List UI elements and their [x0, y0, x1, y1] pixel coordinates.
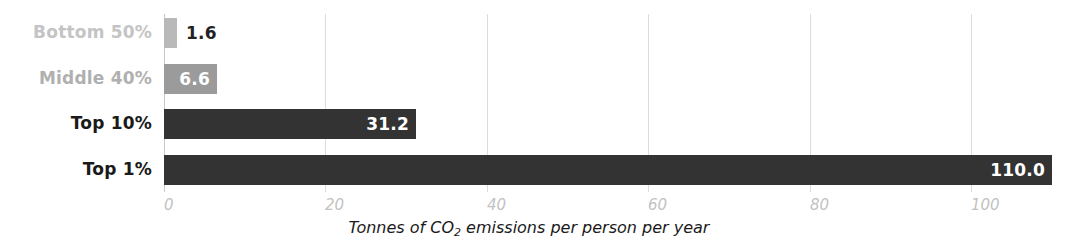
category-label-top-10: Top 10%: [0, 113, 152, 133]
x-axis-caption-subscript: 2: [454, 226, 461, 239]
bar-top-1[interactable]: 110.0: [164, 155, 1052, 185]
bar-value-bottom-50: 1.6: [186, 23, 217, 43]
bar-middle-40[interactable]: 6.6: [164, 64, 217, 94]
category-label-middle-40: Middle 40%: [0, 68, 152, 88]
bar-bottom-50[interactable]: [164, 18, 177, 48]
xtick-label-60: 60: [648, 196, 667, 214]
category-label-bottom-50: Bottom 50%: [0, 22, 152, 42]
xtick-label-20: 20: [325, 196, 344, 214]
xtick-label-100: 100: [971, 196, 1000, 214]
plot-area: 1.6 6.6 31.2 110.0: [164, 14, 971, 192]
xtick-label-0: 0: [164, 196, 174, 214]
category-label-column: Bottom 50% Middle 40% Top 10% Top 1%: [0, 14, 152, 192]
bar-value-top-10: 31.2: [366, 114, 409, 134]
category-label-top-1: Top 1%: [0, 159, 152, 179]
xtick-label-40: 40: [487, 196, 506, 214]
bar-top-10[interactable]: 31.2: [164, 109, 416, 139]
x-axis-caption-pre: Tonnes of CO: [349, 218, 454, 237]
x-axis-caption: Tonnes of CO2 emissions per person per y…: [0, 218, 1058, 237]
bar-value-top-1: 110.0: [990, 160, 1045, 180]
x-axis-caption-post: emissions per person per year: [461, 218, 709, 237]
xtick-label-80: 80: [810, 196, 829, 214]
emissions-bar-chart: Bottom 50% Middle 40% Top 10% Top 1% 1.6…: [0, 0, 1070, 250]
bar-value-middle-40: 6.6: [179, 69, 210, 89]
